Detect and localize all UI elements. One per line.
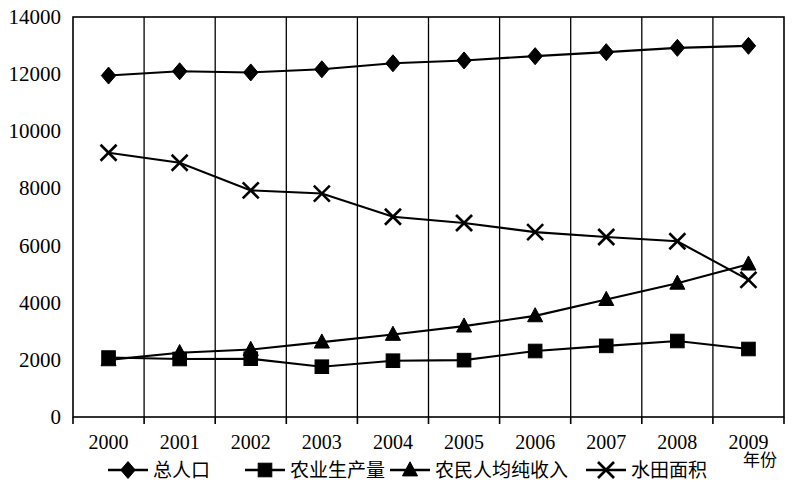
marker-diamond — [457, 52, 471, 69]
marker-diamond — [244, 64, 258, 81]
legend-label: 农业生产量 — [290, 459, 385, 481]
marker-triangle — [741, 256, 756, 270]
chart-legend: 总人口农业生产量农民人均纯收入水田面积 — [108, 459, 707, 481]
y-axis-tick-label: 14000 — [9, 5, 62, 29]
marker-diamond — [315, 61, 329, 78]
x-axis-title: 年份 — [743, 450, 777, 470]
marker-diamond — [172, 63, 186, 80]
legend-label: 总人口 — [153, 459, 210, 481]
legend-item-triangle[interactable]: 农民人均纯收入 — [390, 459, 568, 481]
y-axis-tick-label: 8000 — [19, 176, 61, 200]
x-axis-title-label: 年份 — [743, 450, 777, 470]
marker-square — [742, 342, 756, 356]
y-axis-tick-labels: 02000400060008000100001200014000 — [9, 5, 62, 429]
x-axis-tick-label: 2001 — [160, 431, 200, 453]
x-axis-tick-label: 2002 — [231, 431, 271, 453]
marker-square — [258, 463, 272, 477]
legend-item-square[interactable]: 农业生产量 — [245, 459, 385, 481]
line-chart: 02000400060008000100001200014000 2000200… — [0, 0, 804, 488]
x-axis-tick-label: 2007 — [586, 431, 626, 453]
marker-square — [386, 354, 400, 368]
marker-square — [528, 344, 542, 358]
legend-label: 水田面积 — [631, 459, 707, 481]
y-axis-tick-label: 4000 — [19, 291, 61, 315]
x-axis-tick-label: 2003 — [302, 431, 342, 453]
legend-item-x[interactable]: 水田面积 — [586, 459, 707, 481]
marker-diamond — [101, 67, 115, 84]
marker-diamond — [670, 39, 684, 56]
x-axis-ticks — [73, 417, 784, 424]
marker-diamond — [741, 37, 755, 54]
x-axis-tick-label: 2006 — [515, 431, 555, 453]
chart-container: 02000400060008000100001200014000 2000200… — [0, 0, 804, 488]
y-axis-tick-label: 12000 — [9, 62, 62, 86]
marker-diamond — [386, 55, 400, 72]
legend-item-diamond[interactable]: 总人口 — [108, 459, 210, 481]
y-axis-tick-label: 0 — [51, 405, 62, 429]
x-axis-tick-label: 2008 — [657, 431, 697, 453]
x-axis-tick-label: 2000 — [89, 431, 129, 453]
y-axis-tick-label: 10000 — [9, 119, 62, 143]
marker-square — [315, 360, 329, 374]
x-axis-tick-label: 2004 — [373, 431, 413, 453]
legend-label: 农民人均纯收入 — [435, 459, 568, 481]
x-axis-tick-label: 2005 — [444, 431, 484, 453]
marker-diamond — [599, 44, 613, 61]
marker-square — [457, 353, 471, 367]
gridlines — [144, 17, 713, 417]
marker-diamond — [528, 48, 542, 65]
marker-diamond — [121, 462, 135, 479]
y-axis-tick-label: 2000 — [19, 348, 61, 372]
y-axis-tick-label: 6000 — [19, 234, 61, 258]
marker-square — [599, 339, 613, 353]
x-axis-tick-labels: 2000200120022003200420052006200720082009 — [89, 431, 769, 453]
marker-square — [671, 334, 685, 348]
